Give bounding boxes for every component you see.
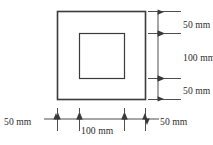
horizontal-dimension-label-center: 100 mm bbox=[81, 125, 114, 136]
outer-square bbox=[58, 12, 146, 100]
figure-canvas: 50 mm 100 mm 50 mm 50 mm 100 mm 50 mm bbox=[0, 0, 213, 145]
inner-square bbox=[80, 34, 125, 79]
horizontal-dimension-label-left: 50 mm bbox=[4, 116, 32, 127]
vertical-extension-lines bbox=[148, 12, 181, 100]
vertical-dimension-label-middle: 100 mm bbox=[183, 52, 213, 63]
vertical-dimension-label-bottom: 50 mm bbox=[183, 85, 211, 96]
vertical-dimension-label-top: 50 mm bbox=[183, 19, 211, 30]
horizontal-dimension-label-right: 50 mm bbox=[160, 116, 188, 127]
dimension-drawing: 50 mm 100 mm 50 mm 50 mm 100 mm 50 mm bbox=[0, 0, 213, 145]
